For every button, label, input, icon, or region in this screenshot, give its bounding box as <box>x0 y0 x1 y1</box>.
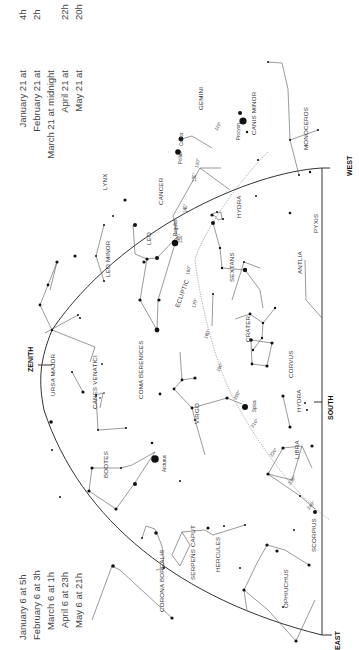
label-gemini: GEMINI <box>197 87 204 110</box>
constellation-lines <box>40 62 322 641</box>
ecl-tick-140: 140° <box>183 203 188 213</box>
ecl-tick-170: 170° <box>191 298 198 309</box>
time-bottom-2: March 6 at 1h <box>45 572 56 630</box>
label-regulus: Regulus <box>173 218 178 236</box>
time-top-0-time: 4h <box>17 9 28 20</box>
ecl-tick-110: 110° <box>214 121 223 132</box>
time-bottom-1: February 6 at 3h <box>31 570 42 640</box>
ecl-tick-180: 180° <box>203 329 211 340</box>
ecliptic-label: ECLIPTIC <box>173 278 190 308</box>
label-coma-berenices: COMA BERENICES <box>137 341 144 400</box>
time-top-4-time: 20h <box>73 4 84 20</box>
time-bottom-0: January 6 at 5h <box>17 574 28 640</box>
label-procyon: Procyon <box>236 123 241 140</box>
ecl-tick-220: 220° <box>269 447 279 458</box>
label-libra: LIBRA <box>293 439 300 459</box>
label-leo-minor: LEO MINOR <box>104 240 111 277</box>
ecl-tick-160: 160° <box>185 265 192 275</box>
label-canes-venatici: CANES VENATICI <box>91 355 98 409</box>
west-label: WEST <box>346 155 353 176</box>
ecliptic-line <box>195 152 330 520</box>
time-bottom-4: May 6 at 21h <box>73 573 84 628</box>
horizon-frame <box>38 168 332 635</box>
times-top: January 21 at 4h February 21 at 2h March… <box>17 4 84 159</box>
south-label: SOUTH <box>327 396 334 421</box>
label-serpens-caput: SERPENS CAPUT <box>189 525 196 580</box>
label-monoceros: MONOCEROS <box>302 107 309 150</box>
constellation-labels: GEMINI CANIS MINOR MONOCEROS LYNX CANCER… <box>49 87 319 612</box>
time-top-3-date: April 21 at <box>59 70 70 113</box>
label-hercules: HERCULES <box>214 537 221 572</box>
label-arcturus: Arcturus <box>162 454 167 472</box>
time-top-1-time: 2h <box>31 9 42 20</box>
label-castor: Castor <box>179 132 184 146</box>
label-hydra-east: HYDRA <box>295 389 302 412</box>
label-pollux: Pollux <box>178 151 183 164</box>
time-top-3-time: 22h <box>59 4 70 20</box>
label-virgo: VIRGO <box>193 403 200 424</box>
ecl-tick-210: 210° <box>250 418 260 429</box>
label-antlia: ANTLIA <box>296 250 303 274</box>
time-top-1-date: February 21 at <box>31 70 42 132</box>
stars <box>39 61 319 643</box>
time-top-2-date: March 21 at midnight <box>45 70 56 159</box>
label-sextans: SEXTANS <box>228 252 235 282</box>
ecl-tick-200: 200° <box>233 390 242 401</box>
ecl-tick-130: 130° <box>192 172 197 182</box>
label-lynx: LYNX <box>101 173 108 190</box>
ecl-tick-240: 240° <box>306 500 316 511</box>
zenith-label: ZENITH <box>27 347 34 372</box>
label-pyxis: PYXIS <box>312 214 319 233</box>
label-ophiuchus: OPHIUCHUS <box>282 569 289 608</box>
label-bootes: BOOTES <box>102 451 109 478</box>
ecl-tick-190: 190° <box>215 362 224 373</box>
ecl-tick-230: 230° <box>287 475 297 486</box>
label-hydra-west: HYDRA <box>235 195 242 218</box>
label-corvus: CORVUS <box>287 350 294 378</box>
label-leo: LEO <box>145 232 152 245</box>
time-top-0-date: January 21 at <box>17 70 28 128</box>
label-cancer: CANCER <box>157 177 164 205</box>
ecl-tick-120: 120° <box>194 158 201 168</box>
label-corona-borealis: CORONA BOREALIS <box>158 550 165 613</box>
star-chart: WEST SOUTH EAST ZENITH <box>0 0 359 650</box>
time-top-4-date: May 21 at <box>73 70 84 112</box>
times-bottom: January 6 at 5h February 6 at 3h March 6… <box>17 570 84 640</box>
label-crater: CRATER <box>244 315 251 342</box>
label-spica: Spica <box>252 400 257 412</box>
label-ursa-major: URSA MAJOR <box>49 353 56 396</box>
ecl-tick-150: 150° <box>178 233 183 243</box>
east-label: EAST <box>334 631 341 650</box>
label-scorpius: SCORPIUS <box>310 518 317 552</box>
label-canis-minor: CANIS MINOR <box>250 91 257 135</box>
time-bottom-3: April 6 at 23h <box>59 572 70 628</box>
